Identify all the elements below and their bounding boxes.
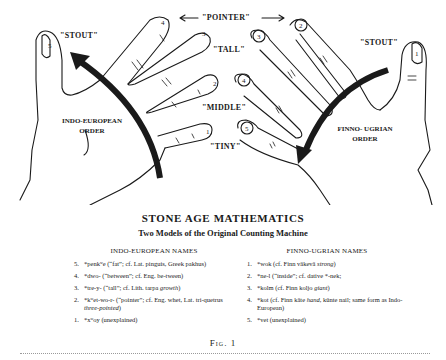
left-finger-number-5: 5 (48, 42, 52, 50)
list-item: 5. *penkʷe (“fat”; cf. Lat. pinguis, Gre… (74, 260, 234, 268)
right-finger-2-inner (296, 34, 346, 98)
pointer-arrow-right (262, 15, 284, 21)
counting-hands-figure: 5 4 3 2 1 2 3 4 5 1 "POINTER" "STOUT" "S… (0, 0, 446, 205)
svg-text:4: 4 (242, 77, 246, 85)
list-item: 2. *ne-l (“inside”; cf. dative *-nek; (247, 272, 407, 280)
right-finger-3 (251, 30, 332, 116)
cut-off-text-line (20, 353, 430, 357)
label-pointer: "POINTER" (202, 13, 250, 22)
list-item: 3. *tre-y- (“tall”; cf. Lith. tarpa grow… (74, 284, 234, 292)
list-item: 4. *kot (cf. Finn käte hand, künte nail;… (247, 296, 407, 312)
list-item: 1. *wok (cf. Finn väkevä strong) (247, 260, 407, 268)
figure-caption: Fig. 1 (0, 338, 446, 348)
finno-ugrian-heading: FINNO-UGRIAN NAMES (247, 247, 407, 255)
svg-text:3: 3 (257, 33, 261, 41)
list-item: 3. *kolm (cf. Finn koljo giant) (247, 284, 407, 292)
label-tiny: "TINY" (210, 142, 241, 151)
label-stout-right: "STOUT" (360, 38, 398, 47)
list-item: 5. *vet (unexplained) (247, 316, 407, 324)
list-item: 4. *dwo- (“between”; cf. Eng. be-tween) (74, 272, 234, 280)
finno-ugrian-names-list: FINNO-UGRIAN NAMES 1. *wok (cf. Finn väk… (247, 247, 407, 328)
right-palm-edge (240, 140, 330, 205)
indo-european-order-label: INDO-EUROPEAN ORDER (52, 116, 132, 136)
figure-subtitle: Two Models of the Original Counting Mach… (0, 228, 446, 238)
svg-text:4: 4 (161, 19, 165, 27)
indo-european-names-list: INDO-EUROPEAN NAMES 5. *penkʷe (“fat”; c… (74, 247, 234, 328)
right-finger-2 (290, 20, 380, 110)
label-tall: "TALL" (213, 45, 245, 54)
svg-text:2: 2 (213, 80, 217, 88)
list-item: 1. *xʷoy (unexplained) (74, 316, 234, 324)
svg-text:3: 3 (202, 30, 206, 38)
figure-title: STONE AGE MATHEMATICS (0, 212, 446, 224)
svg-text:5: 5 (245, 125, 249, 133)
list-item: 2. *kʷet-wo-r- (“pointer”; cf. Eng. whet… (74, 296, 234, 312)
indo-european-heading: INDO-EUROPEAN NAMES (74, 247, 234, 255)
label-stout-left: "STOUT" (60, 31, 98, 40)
finno-ugrian-order-label: FINNO- UGRIAN ORDER (325, 124, 405, 144)
left-finger-3 (128, 33, 210, 85)
svg-text:2: 2 (299, 22, 303, 30)
svg-text:1: 1 (415, 50, 419, 58)
svg-text:1: 1 (206, 128, 210, 136)
label-middle: "MIDDLE" (202, 103, 246, 112)
pointer-arrow-left (180, 15, 198, 21)
left-finger-1 (158, 124, 212, 148)
